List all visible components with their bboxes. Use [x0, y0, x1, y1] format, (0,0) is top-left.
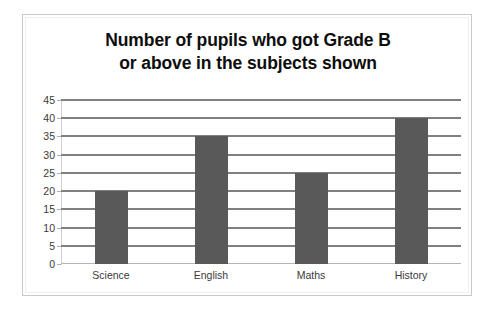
y-tick-label-20: 20: [43, 185, 55, 197]
chart-title-line-2: or above in the subjects shown: [23, 52, 473, 75]
x-axis-labels: ScienceEnglishMathsHistory: [61, 269, 461, 285]
bar-history: [395, 118, 428, 264]
chart-title-line-1: Number of pupils who got Grade B: [23, 29, 473, 52]
x-label-english: English: [194, 269, 228, 281]
bar-science: [95, 191, 128, 264]
chart-title: Number of pupils who got Grade B or abov…: [23, 29, 473, 75]
y-tick-label-30: 30: [43, 149, 55, 161]
y-tick-label-40: 40: [43, 112, 55, 124]
y-tick-0: [57, 264, 61, 265]
y-tick-label-45: 45: [43, 94, 55, 106]
plot-area: 051015202530354045: [61, 100, 461, 264]
y-tick-label-0: 0: [49, 258, 55, 270]
y-tick-label-25: 25: [43, 167, 55, 179]
x-label-maths: Maths: [297, 269, 326, 281]
x-label-science: Science: [92, 269, 129, 281]
bar-maths: [295, 173, 328, 264]
x-label-history: History: [395, 269, 428, 281]
chart-figure: Number of pupils who got Grade B or abov…: [22, 14, 472, 296]
y-tick-label-35: 35: [43, 130, 55, 142]
bars-group: [61, 100, 461, 264]
y-tick-label-10: 10: [43, 222, 55, 234]
bar-english: [195, 136, 228, 264]
y-tick-label-5: 5: [49, 240, 55, 252]
y-tick-label-15: 15: [43, 203, 55, 215]
